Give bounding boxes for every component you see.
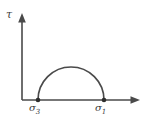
vertical-axis-label: τ xyxy=(6,9,12,20)
arrow-right-icon xyxy=(131,96,141,104)
point-label-sigma1-subscript: 1 xyxy=(102,108,106,116)
point-label-sigma3: σ3 xyxy=(29,103,40,116)
arrow-up-icon xyxy=(18,13,26,23)
point-label-sigma3-subscript: 3 xyxy=(36,108,40,116)
point-label-sigma3-symbol: σ xyxy=(29,102,36,113)
mohr-circle-canvas xyxy=(0,0,150,125)
point-marker-sigma3 xyxy=(36,98,41,103)
point-label-sigma1-symbol: σ xyxy=(95,102,102,113)
point-label-sigma1: σ1 xyxy=(95,103,106,116)
mohr-semicircle-curve xyxy=(38,67,104,100)
mohr-circle-figure: τ σ3 σ1 xyxy=(0,0,150,125)
vertical-axis xyxy=(18,13,26,100)
point-marker-sigma1 xyxy=(102,98,107,103)
